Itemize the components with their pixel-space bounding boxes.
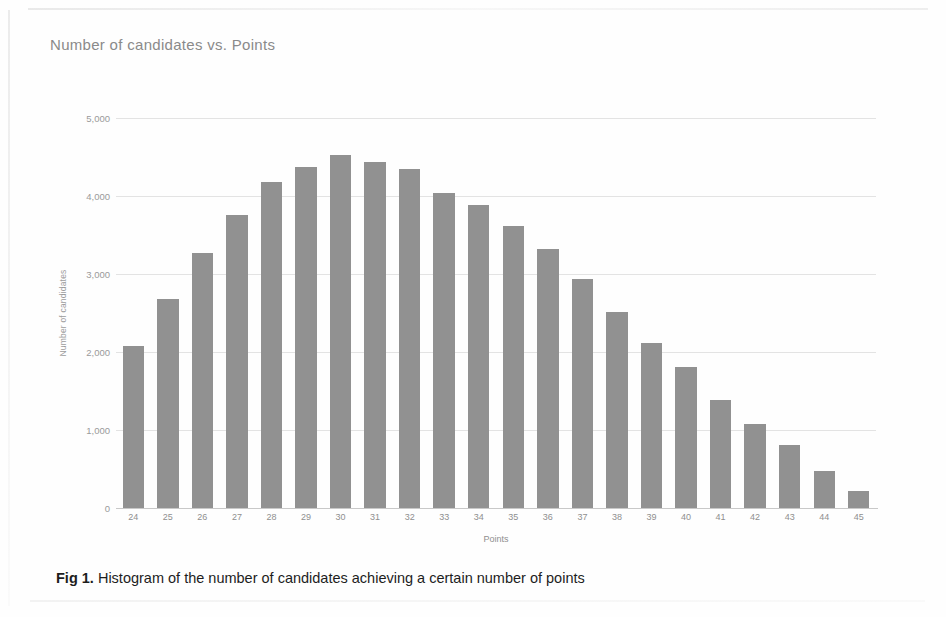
bar[interactable] [503,226,524,508]
y-axis-title: Number of candidates [58,118,68,508]
y-axis-tick-label: 1,000 [86,425,110,436]
figure-number-label: Fig 1. [56,570,94,586]
bar[interactable] [123,346,144,508]
bar-group [116,118,876,508]
x-axis-tick-label: 45 [841,512,876,522]
x-axis-tick-label: 32 [392,512,427,522]
x-axis-tick-label: 38 [600,512,635,522]
scan-artifact-bottom [30,600,925,602]
figure-caption-text: Histogram of the number of candidates ac… [98,570,585,586]
x-axis-tick-label: 44 [807,512,842,522]
bar[interactable] [848,491,869,508]
bar-slot [185,118,220,508]
x-axis-tick-labels: 2425262728293031323334353637383940414243… [116,512,876,522]
bar[interactable] [572,279,593,508]
bar-slot [772,118,807,508]
bar[interactable] [433,193,454,508]
bar-slot [289,118,324,508]
bar[interactable] [295,167,316,508]
bar[interactable] [710,400,731,508]
x-axis-tick-label: 29 [289,512,324,522]
bar[interactable] [157,299,178,508]
y-axis-tick-labels: 5,0004,0003,0002,0001,0000 [74,118,110,508]
x-axis-tick-label: 24 [116,512,151,522]
bar[interactable] [641,343,662,508]
bar-slot [323,118,358,508]
bar[interactable] [675,367,696,508]
x-axis-tick-label: 34 [461,512,496,522]
x-axis-tick-label: 36 [531,512,566,522]
bar[interactable] [226,215,247,508]
x-axis-title: Points [116,534,876,544]
x-axis-tick-label: 28 [254,512,289,522]
bar[interactable] [330,155,351,508]
bar-slot [531,118,566,508]
x-axis-tick-label: 27 [220,512,255,522]
x-axis-tick-label: 26 [185,512,220,522]
bar-slot [358,118,393,508]
x-axis-tick-label: 40 [669,512,704,522]
bar-slot [461,118,496,508]
bar[interactable] [814,471,835,508]
bar[interactable] [468,205,489,508]
x-axis-tick-label: 43 [772,512,807,522]
bar-slot [496,118,531,508]
bar-slot [254,118,289,508]
y-axis-tick-label: 0 [105,503,110,514]
bar[interactable] [744,424,765,508]
bar[interactable] [399,169,420,508]
x-axis-tick-label: 42 [738,512,773,522]
bar[interactable] [606,312,627,508]
bar-slot [392,118,427,508]
histogram-chart: 5,0004,0003,0002,0001,0000 2425262728293… [28,62,918,532]
bar-slot [116,118,151,508]
y-axis-tick-label: 2,000 [86,347,110,358]
bar[interactable] [779,445,800,508]
x-axis-tick-label: 31 [358,512,393,522]
bar-slot [600,118,635,508]
bar-slot [634,118,669,508]
x-axis-tick-label: 35 [496,512,531,522]
bar[interactable] [364,162,385,508]
x-axis-tick-label: 33 [427,512,462,522]
bar[interactable] [261,182,282,508]
x-axis-tick-label: 25 [151,512,186,522]
bar-slot [841,118,876,508]
scan-artifact-top [28,8,928,10]
figure-caption: Fig 1. Histogram of the number of candid… [56,570,585,586]
bar-slot [220,118,255,508]
bar-slot [669,118,704,508]
bar-slot [151,118,186,508]
y-axis-tick-label: 4,000 [86,191,110,202]
bar[interactable] [192,253,213,508]
bar-slot [738,118,773,508]
x-axis-tick-label: 41 [703,512,738,522]
bar[interactable] [537,249,558,508]
scan-artifact-left [8,10,10,606]
x-axis-tick-label: 37 [565,512,600,522]
y-axis-tick-label: 3,000 [86,269,110,280]
bar-slot [565,118,600,508]
chart-title: Number of candidates vs. Points [50,36,275,53]
bar-slot [427,118,462,508]
bar-slot [703,118,738,508]
bar-slot [807,118,842,508]
x-axis-tick-label: 39 [634,512,669,522]
figure-block: Number of candidates vs. Points 5,0004,0… [28,22,918,582]
x-axis-line [116,508,878,509]
scanned-page: Number of candidates vs. Points 5,0004,0… [0,0,946,617]
y-axis-tick-label: 5,000 [86,113,110,124]
x-axis-tick-label: 30 [323,512,358,522]
